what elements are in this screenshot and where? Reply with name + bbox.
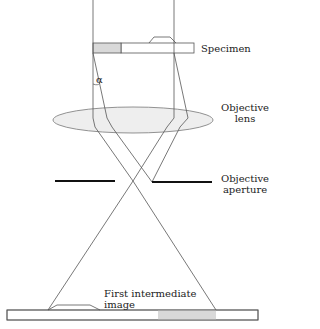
objective-aperture-label-line1: Objective <box>218 173 272 184</box>
objective-lens-label-line1: Objective <box>218 102 272 113</box>
first-image-label: First intermediate image <box>104 288 197 310</box>
objective-lens-label: Objective lens <box>218 102 272 124</box>
first-image-label-line1: First intermediate <box>104 288 197 299</box>
objective-aperture-label: Objective aperture <box>218 173 272 195</box>
angle-label: α <box>96 74 103 85</box>
objective-lens <box>53 107 213 133</box>
specimen <box>93 37 194 53</box>
first-image-label-line2: image <box>104 299 197 310</box>
objective-lens-label-line2: lens <box>218 113 272 124</box>
objective-aperture-label-line2: aperture <box>218 184 272 195</box>
specimen-label: Specimen <box>201 43 251 54</box>
